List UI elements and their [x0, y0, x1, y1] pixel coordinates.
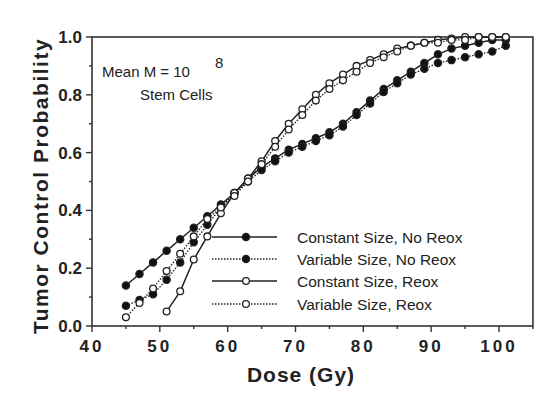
open-marker: [272, 143, 279, 150]
y-axis-title: Tumor Control Probability: [29, 38, 52, 334]
open-marker: [462, 36, 469, 43]
legend-open-marker: [243, 278, 250, 285]
annotation-superscript: 8: [215, 54, 223, 71]
open-marker: [353, 68, 360, 75]
annotation-line2: Stem Cells: [140, 86, 213, 103]
x-axis: 405060708090100: [80, 326, 533, 356]
y-tick-label: 0.6: [58, 144, 82, 163]
y-tick-label: 0.0: [58, 317, 82, 336]
filled-marker: [312, 137, 319, 144]
open-marker: [340, 77, 347, 84]
filled-marker: [475, 51, 482, 58]
open-marker: [245, 178, 252, 185]
y-axis: 0.00.20.40.60.81.0: [58, 28, 92, 336]
filled-marker: [163, 276, 170, 283]
open-marker: [394, 48, 401, 55]
filled-marker: [461, 54, 468, 61]
open-marker: [204, 216, 211, 223]
y-tick-label: 0.4: [58, 201, 82, 220]
filled-marker: [502, 42, 509, 49]
open-marker: [380, 54, 387, 61]
filled-marker: [367, 100, 374, 107]
filled-marker: [122, 282, 129, 289]
open-marker: [217, 204, 224, 211]
annotation-line1: Mean M = 10: [102, 63, 190, 80]
filled-marker: [163, 247, 170, 254]
series-line: [167, 37, 506, 312]
open-marker: [435, 39, 442, 46]
legend: Constant Size, No ReoxVariable Size, No …: [212, 229, 463, 313]
filled-marker: [285, 149, 292, 156]
open-marker: [502, 34, 509, 41]
y-tick-label: 0.2: [58, 259, 82, 278]
stem-cells-annotation: Mean M = 10 8 Stem Cells: [102, 54, 223, 103]
filled-marker: [380, 88, 387, 95]
open-marker: [407, 42, 414, 49]
legend-filled-marker: [242, 233, 249, 240]
filled-marker: [177, 259, 184, 266]
open-marker: [123, 314, 130, 321]
x-tick-label: 70: [283, 337, 308, 356]
filled-marker: [299, 143, 306, 150]
filled-marker: [326, 132, 333, 139]
filled-marker: [339, 123, 346, 130]
x-axis-title: Dose (Gy): [247, 363, 355, 386]
open-marker: [190, 256, 197, 263]
filled-marker: [149, 259, 156, 266]
open-marker: [136, 299, 143, 306]
legend-label: Constant Size, Reox: [297, 273, 439, 290]
open-marker: [204, 233, 211, 240]
open-marker: [285, 126, 292, 133]
filled-marker: [448, 57, 455, 64]
filled-marker: [177, 236, 184, 243]
filled-marker: [394, 80, 401, 87]
filled-marker: [489, 48, 496, 55]
y-tick-label: 1.0: [58, 28, 82, 47]
filled-marker: [353, 111, 360, 118]
filled-marker: [407, 71, 414, 78]
y-tick-label: 0.8: [58, 86, 82, 105]
series-variable-size-no-reox: [122, 42, 509, 309]
filled-marker: [421, 65, 428, 72]
open-marker: [231, 193, 238, 200]
filled-marker: [434, 59, 441, 66]
open-marker: [299, 112, 306, 119]
filled-marker: [448, 45, 455, 52]
filled-marker: [122, 302, 129, 309]
legend-label: Constant Size, No Reox: [297, 229, 463, 246]
open-marker: [326, 86, 333, 93]
open-marker: [163, 308, 170, 315]
legend-label: Variable Size, Reox: [297, 296, 432, 313]
filled-marker: [190, 224, 197, 231]
open-marker: [150, 285, 157, 292]
filled-marker: [272, 158, 279, 165]
x-tick-label: 80: [351, 337, 376, 356]
legend-label: Variable Size, No Reox: [297, 251, 456, 268]
x-tick-label: 60: [215, 337, 240, 356]
filled-marker: [136, 270, 143, 277]
open-marker: [448, 36, 455, 43]
open-marker: [177, 288, 184, 295]
legend-filled-marker: [242, 255, 249, 262]
open-marker: [489, 34, 496, 41]
x-tick-label: 100: [480, 337, 517, 356]
x-tick-label: 50: [147, 337, 172, 356]
open-marker: [190, 233, 197, 240]
open-marker: [421, 39, 428, 46]
open-marker: [258, 161, 265, 168]
open-marker: [367, 60, 374, 67]
x-tick-label: 40: [80, 337, 105, 356]
filled-marker: [434, 51, 441, 58]
open-marker: [163, 268, 170, 275]
open-marker: [312, 97, 319, 104]
legend-open-marker: [243, 301, 250, 308]
tcp-dose-chart: 0.00.20.40.60.81.0 405060708090100 Mean …: [0, 0, 550, 403]
open-marker: [475, 34, 482, 41]
open-marker: [177, 250, 184, 257]
x-tick-label: 90: [419, 337, 444, 356]
